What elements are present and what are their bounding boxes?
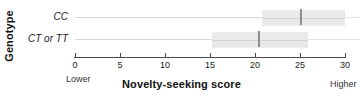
median-marker-cc [300,9,302,25]
category-label-ct-or-tt: CT or TT [0,33,72,44]
x-tick-label-30: 30 [340,60,350,70]
x-tick-label-5: 5 [117,60,122,70]
x-tick-label-25: 25 [295,60,305,70]
x-tick-0 [75,53,76,58]
box-ct-or-tt [212,32,308,48]
x-tick-10 [165,53,166,58]
category-label-cc: CC [0,11,72,22]
box-cc [262,10,345,26]
x-tick-label-10: 10 [160,60,170,70]
median-marker-ct-or-tt [258,31,260,47]
axis-endpoint-label-higher: Higher [330,79,357,89]
x-tick-label-0: 0 [72,60,77,70]
x-axis-title: Novelty-seeking score [0,78,363,90]
x-tick-label-15: 15 [205,60,215,70]
x-tick-label-20: 20 [250,60,260,70]
novelty-seeking-score-chart: Genotype CC CT or TT 051015202530 Lower … [0,0,363,99]
x-tick-20 [255,53,256,58]
x-tick-5 [120,53,121,58]
x-tick-30 [345,53,346,58]
box-inner-rule-cc [262,18,345,19]
box-inner-rule-ct-or-tt [212,40,308,41]
x-tick-15 [210,53,211,58]
x-tick-25 [300,53,301,58]
plot-area [75,0,345,56]
